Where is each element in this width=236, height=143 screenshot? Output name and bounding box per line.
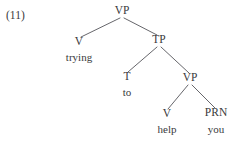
node-vp-root: VP	[115, 4, 130, 16]
node-v-help: V	[163, 107, 172, 119]
branch-tp-to-t	[128, 47, 157, 72]
syntax-tree-figure: (11) VP V TP T VP V PRN trying to help y…	[0, 0, 236, 143]
example-number: (11)	[6, 9, 25, 22]
node-t-to: T	[123, 70, 130, 82]
terminal-to: to	[123, 86, 132, 98]
branch-vp-root-to-v	[81, 18, 120, 37]
branch-tp-to-vp-inner	[161, 47, 189, 73]
syntax-tree-canvas: (11) VP V TP T VP V PRN trying to help y…	[0, 0, 236, 143]
branch-vp-inner-to-prn	[192, 85, 215, 108]
terminal-trying: trying	[66, 51, 93, 63]
node-vp-inner: VP	[183, 71, 198, 83]
terminal-help: help	[158, 123, 177, 135]
node-tp: TP	[152, 33, 165, 45]
terminal-you: you	[208, 123, 225, 135]
branch-vp-inner-to-v	[168, 85, 188, 109]
node-v-trying: V	[75, 35, 84, 47]
node-prn-you: PRN	[205, 106, 228, 118]
